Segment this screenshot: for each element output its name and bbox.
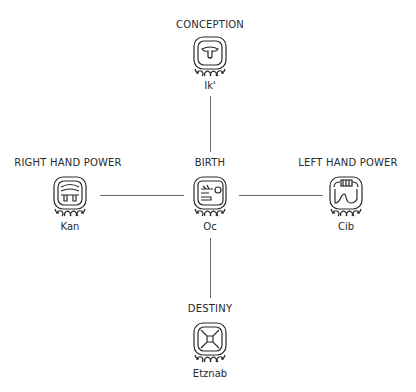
node-day-sign: Etznab (193, 368, 227, 379)
node-title: DESTINY (188, 303, 232, 314)
oc-glyph-icon (191, 175, 229, 221)
connector-birth-right-hand-power (100, 195, 184, 196)
node-day-sign: Cib (338, 221, 354, 232)
ik-glyph-icon (191, 35, 229, 81)
node-title: LEFT HAND POWER (298, 157, 398, 168)
connector-birth-left-hand-power (239, 195, 323, 196)
connector-birth-conception (210, 96, 211, 152)
node-title: RIGHT HAND POWER (14, 157, 121, 168)
cib-glyph-icon (327, 175, 365, 221)
node-title: BIRTH (195, 157, 226, 168)
kan-glyph-icon (51, 175, 89, 221)
node-day-sign: Ik' (204, 80, 216, 91)
node-title: CONCEPTION (176, 19, 244, 30)
connector-birth-destiny (210, 238, 211, 298)
node-day-sign: Oc (203, 221, 216, 232)
node-day-sign: Kan (61, 221, 80, 232)
etznab-glyph-icon (191, 321, 229, 367)
